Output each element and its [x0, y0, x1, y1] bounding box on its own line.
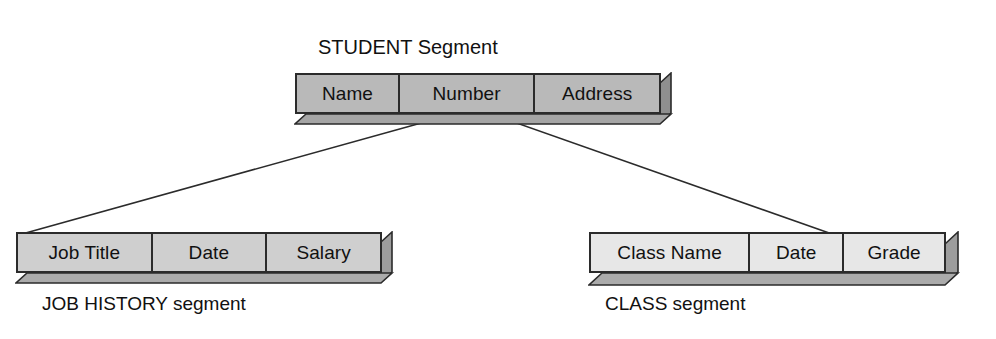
job-history-segment-caption: JOB HISTORY segment	[42, 293, 246, 315]
diagram-canvas: STUDENT Segment Name Number Address Job …	[0, 0, 996, 339]
student-segment-bottom-face	[294, 112, 674, 128]
class-cell-class-name: Class Name	[591, 234, 750, 271]
job-history-segment-face: Job Title Date Salary	[16, 232, 382, 273]
job-history-cell-salary: Salary	[267, 234, 380, 271]
class-segment-face: Class Name Date Grade	[589, 232, 946, 273]
job-history-segment-bottom-face	[15, 271, 395, 287]
job-history-cell-date: Date	[153, 234, 268, 271]
job-history-cell-job-title: Job Title	[18, 234, 153, 271]
class-cell-grade: Grade	[844, 234, 944, 271]
student-cell-name: Name	[297, 75, 400, 112]
student-segment-face: Name Number Address	[295, 73, 661, 114]
student-cell-number: Number	[400, 75, 536, 112]
student-segment: Name Number Address	[295, 73, 673, 123]
class-segment-caption: CLASS segment	[605, 293, 745, 315]
class-segment-bottom-face	[588, 271, 963, 289]
job-history-segment: Job Title Date Salary	[16, 232, 396, 282]
class-cell-date: Date	[750, 234, 844, 271]
student-cell-address: Address	[535, 75, 659, 112]
class-segment: Class Name Date Grade	[589, 232, 969, 282]
student-segment-title: STUDENT Segment	[318, 36, 498, 59]
